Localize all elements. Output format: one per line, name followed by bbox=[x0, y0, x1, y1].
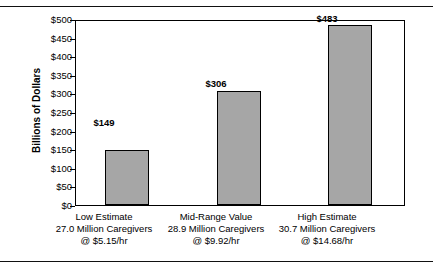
bar-value-label-mid: $306 bbox=[194, 78, 238, 89]
y-tick-label: $200 bbox=[30, 127, 72, 136]
y-tick-label: $350 bbox=[30, 71, 72, 80]
y-tick-label: $150 bbox=[30, 145, 72, 154]
y-tick-label: $0 bbox=[30, 201, 72, 210]
category-label-high-estimate: High Estimate 30.7 Million Caregivers @ … bbox=[257, 211, 397, 247]
bar-mid-range-value[interactable] bbox=[217, 91, 261, 205]
bar-value-label-high: $483 bbox=[305, 13, 349, 24]
top-divider bbox=[0, 6, 433, 7]
y-tick-label: $300 bbox=[30, 89, 72, 98]
y-tick-label: $250 bbox=[30, 108, 72, 117]
bar-low-estimate[interactable] bbox=[105, 150, 149, 205]
y-tick-label: $100 bbox=[30, 164, 72, 173]
y-tick-mark bbox=[70, 206, 75, 207]
y-tick-label: $50 bbox=[30, 182, 72, 191]
y-tick-label: $400 bbox=[30, 52, 72, 61]
bar-high-estimate[interactable] bbox=[328, 25, 372, 205]
chart-container: Billions of Dollars $500 $450 $400 $350 … bbox=[0, 0, 433, 267]
plot-area bbox=[75, 20, 405, 206]
bar-value-label-low: $149 bbox=[82, 117, 126, 128]
category-name: High Estimate bbox=[257, 211, 397, 223]
category-subline-1: 30.7 Million Caregivers bbox=[257, 223, 397, 235]
y-axis-tick-labels: $500 $450 $400 $350 $300 $250 $200 $150 … bbox=[26, 20, 72, 206]
category-subline-2: @ $14.68/hr bbox=[257, 235, 397, 247]
bottom-divider bbox=[0, 261, 433, 262]
y-tick-label: $450 bbox=[30, 34, 72, 43]
y-tick-label: $500 bbox=[30, 15, 72, 24]
